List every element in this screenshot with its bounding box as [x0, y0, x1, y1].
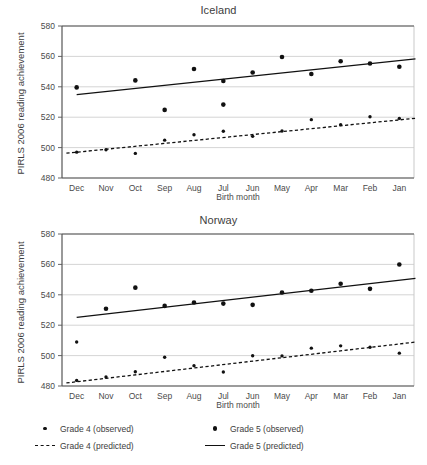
legend-item-label: Grade 4 (observed): [60, 424, 134, 434]
data-point-grade4-observed: [222, 370, 225, 373]
data-point-grade5-observed: [280, 290, 285, 295]
data-point-grade4-observed: [134, 370, 137, 373]
data-point-grade5-observed: [309, 288, 314, 293]
x-tick-label: Aug: [186, 183, 201, 193]
x-tick-label: Apr: [305, 391, 318, 401]
y-tick-label: 560: [41, 259, 55, 269]
x-tick-label: Sep: [157, 183, 172, 193]
data-point-grade5-observed: [250, 70, 255, 75]
x-tick-label: Jan: [392, 183, 406, 193]
legend-key: [200, 426, 230, 431]
data-point-grade4-observed: [280, 129, 283, 132]
data-point-grade4-observed: [251, 135, 254, 138]
x-tick-label: Oct: [129, 183, 143, 193]
x-tick-label: Nov: [98, 183, 114, 193]
x-tick-label: Oct: [129, 391, 143, 401]
x-tick-label: Nov: [98, 391, 114, 401]
data-point-grade4-observed: [222, 129, 225, 132]
data-point-grade4-observed: [192, 364, 195, 367]
data-point-grade4-observed: [280, 354, 283, 357]
x-tick-label: Jan: [392, 391, 406, 401]
y-tick-label: 520: [41, 320, 55, 330]
plot-area-norway: 480500520540560580DecNovOctSepAugJulJunM…: [0, 210, 427, 415]
legend-key: [200, 445, 230, 446]
data-point-grade4-observed: [163, 356, 166, 359]
legend-marker-solid-line: [205, 445, 225, 446]
x-tick-label: May: [274, 183, 291, 193]
data-point-grade5-observed: [250, 303, 255, 308]
chart-legend: Grade 4 (observed)Grade 5 (observed)Grad…: [0, 420, 427, 460]
data-point-grade4-observed: [104, 375, 107, 378]
data-point-grade5-observed: [133, 78, 138, 83]
legend-key: [30, 427, 60, 430]
data-point-grade4-observed: [310, 346, 313, 349]
data-point-grade4-observed: [368, 115, 371, 118]
legend-marker-small-dot: [43, 427, 46, 430]
data-point-grade4-observed: [134, 152, 137, 155]
y-tick-label: 480: [41, 381, 55, 391]
trendline-grade4-predicted: [66, 342, 415, 383]
x-tick-label: Apr: [305, 183, 318, 193]
x-tick-label: Aug: [186, 391, 201, 401]
y-tick-label: 560: [41, 51, 55, 61]
data-point-grade5-observed: [192, 67, 197, 72]
x-tick-label: Feb: [363, 183, 378, 193]
legend-marker-large-dot: [213, 426, 218, 431]
y-tick-label: 580: [41, 21, 55, 31]
y-tick-label: 520: [41, 112, 55, 122]
y-tick-label: 480: [41, 173, 55, 183]
x-axis-title: Birth month: [216, 400, 260, 410]
x-axis-title: Birth month: [216, 192, 260, 202]
y-tick-label: 500: [41, 143, 55, 153]
plot-area-iceland: 480500520540560580DecNovOctSepAugJulJunM…: [0, 0, 427, 207]
data-point-grade5-observed: [368, 287, 373, 292]
y-tick-label: 580: [41, 229, 55, 239]
data-point-grade5-observed: [280, 55, 285, 60]
data-point-grade5-observed: [162, 304, 167, 309]
data-point-grade4-observed: [398, 351, 401, 354]
data-point-grade4-observed: [75, 150, 78, 153]
data-point-grade5-observed: [338, 281, 343, 286]
data-point-grade4-observed: [398, 117, 401, 120]
data-point-grade5-observed: [133, 285, 138, 290]
legend-item-label: Grade 4 (predicted): [60, 441, 134, 451]
data-point-grade5-observed: [192, 300, 197, 305]
data-point-grade5-observed: [221, 102, 226, 107]
data-point-grade4-observed: [339, 344, 342, 347]
legend-item-grade5-observed: Grade 5 (observed): [200, 420, 375, 437]
data-point-grade5-observed: [162, 108, 167, 113]
x-tick-label: Feb: [363, 391, 378, 401]
x-tick-label: Sep: [157, 391, 172, 401]
data-point-grade5-observed: [221, 301, 226, 306]
legend-item-grade5-predicted: Grade 5 (predicted): [200, 437, 375, 454]
data-point-grade4-observed: [104, 148, 107, 151]
data-point-grade4-observed: [192, 133, 195, 136]
data-point-grade4-observed: [251, 354, 254, 357]
figure-birth-month-reading-achievement: Iceland PIRLS 2006 reading achievement 4…: [0, 0, 427, 465]
data-point-grade5-observed: [397, 262, 402, 267]
data-point-grade4-observed: [310, 118, 313, 121]
data-point-grade5-observed: [104, 306, 109, 311]
data-point-grade4-observed: [75, 340, 78, 343]
data-point-grade5-observed: [368, 61, 373, 66]
x-tick-label: Mar: [333, 391, 348, 401]
legend-item-label: Grade 5 (observed): [230, 424, 304, 434]
trendline-grade5-predicted: [77, 278, 416, 317]
x-tick-label: May: [274, 391, 291, 401]
legend-item-grade4-predicted: Grade 4 (predicted): [30, 437, 200, 454]
legend-marker-dashed-line: [35, 445, 55, 446]
legend-item-grade4-observed: Grade 4 (observed): [30, 420, 200, 437]
x-tick-label: Dec: [69, 183, 85, 193]
x-tick-label: Dec: [69, 391, 85, 401]
chart-panel-iceland: Iceland PIRLS 2006 reading achievement 4…: [0, 0, 427, 207]
data-point-grade5-observed: [221, 79, 226, 84]
data-point-grade4-observed: [339, 123, 342, 126]
trendline-grade5-predicted: [77, 59, 416, 95]
data-point-grade5-observed: [74, 85, 79, 90]
data-point-grade5-observed: [309, 72, 314, 77]
y-tick-label: 540: [41, 82, 55, 92]
data-point-grade4-observed: [75, 379, 78, 382]
data-point-grade4-observed: [163, 138, 166, 141]
data-point-grade5-observed: [397, 64, 402, 69]
legend-item-label: Grade 5 (predicted): [230, 441, 304, 451]
